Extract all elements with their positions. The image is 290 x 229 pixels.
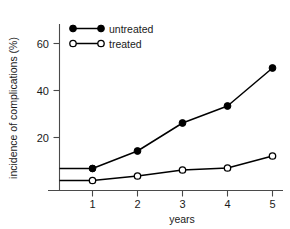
- legend: untreated treated: [70, 23, 154, 50]
- legend-marker-treated-left: [70, 40, 76, 46]
- x-tick-label-1: 1: [89, 198, 95, 210]
- legend-label-treated: treated: [109, 38, 142, 50]
- legend-entry-untreated: untreated: [70, 23, 154, 35]
- series-line-untreated: [60, 68, 273, 169]
- data-point-untreated-5: [269, 65, 276, 72]
- legend-marker-untreated-left: [70, 25, 77, 32]
- chart-figure: 60 40 20 1 2 3 4 5 years incidence of co…: [0, 0, 290, 229]
- data-point-untreated-1: [89, 165, 96, 172]
- data-point-treated-4: [224, 165, 230, 171]
- legend-marker-treated-right: [98, 40, 104, 46]
- x-tick-label-3: 3: [179, 198, 185, 210]
- x-tick-label-2: 2: [134, 198, 140, 210]
- legend-label-untreated: untreated: [109, 23, 154, 35]
- data-point-untreated-2: [134, 148, 141, 155]
- legend-entry-treated: treated: [70, 38, 142, 50]
- data-point-untreated-3: [179, 120, 186, 127]
- data-point-treated-3: [179, 167, 185, 173]
- x-axis-title: years: [169, 213, 195, 225]
- legend-marker-untreated-right: [98, 25, 105, 32]
- line-chart: 60 40 20 1 2 3 4 5 years incidence of co…: [0, 0, 290, 229]
- data-point-untreated-4: [224, 103, 231, 110]
- data-point-treated-2: [134, 173, 140, 179]
- x-tick-label-5: 5: [269, 198, 275, 210]
- y-tick-label-40: 40: [37, 85, 49, 97]
- y-tick-label-20: 20: [37, 132, 49, 144]
- y-axis-title: incidence of complications (%): [7, 37, 19, 179]
- x-tick-label-4: 4: [224, 198, 230, 210]
- y-tick-label-60: 60: [37, 38, 49, 50]
- data-point-treated-1: [89, 177, 95, 183]
- data-point-treated-5: [269, 153, 275, 159]
